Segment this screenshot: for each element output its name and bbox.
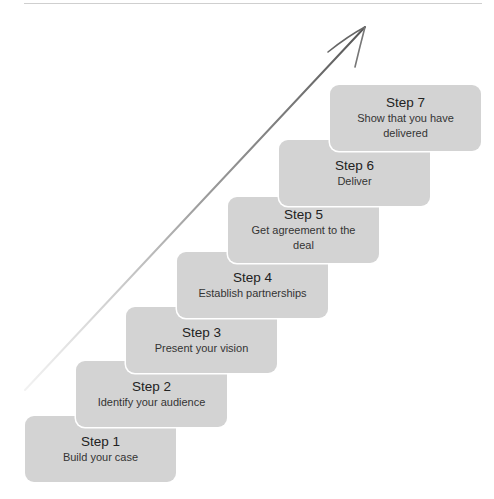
step-1-description: Build your case [45,450,156,465]
step-7-title: Step 7 [386,95,425,111]
step-4-description: Establish partnerships [180,286,324,301]
step-4-title: Step 4 [233,270,272,286]
step-7-description: Show that you have delivered [330,111,481,141]
step-6-description: Deliver [319,174,389,189]
step-2-description: Identify your audience [80,395,224,410]
step-5-box: Step 5 Get agreement to the deal [228,197,379,263]
step-3-description: Present your vision [137,341,267,356]
step-2-title: Step 2 [132,379,171,395]
step-7-box: Step 7 Show that you have delivered [330,85,481,151]
step-5-description: Get agreement to the deal [228,223,379,253]
step-3-title: Step 3 [182,325,221,341]
step-5-title: Step 5 [284,207,323,223]
step-6-title: Step 6 [335,158,374,174]
step-1-title: Step 1 [81,434,120,450]
